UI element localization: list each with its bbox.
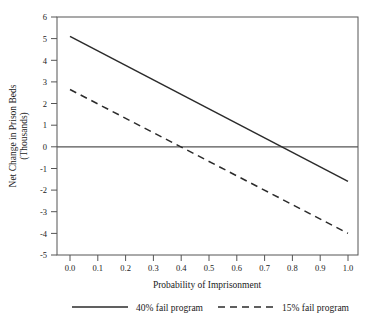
x-axis-title: Probability of Imprisonment xyxy=(153,280,262,290)
series-line-15-fail-program xyxy=(70,90,348,234)
x-tick-label: 0.6 xyxy=(231,263,242,273)
x-tick-label: 0.4 xyxy=(176,263,187,273)
x-tick-label: 0.1 xyxy=(92,263,103,273)
legend-label-15-fail-program: 15% fail program xyxy=(282,303,350,313)
x-axis: 0.0 0.1 0.2 0.3 0.4 0.5 0.6 0.7 0.8 0.9 … xyxy=(65,255,354,273)
x-tick-label: 0.2 xyxy=(120,263,131,273)
y-tick-label: 0 xyxy=(43,142,47,152)
y-tick-label: 2 xyxy=(43,99,47,109)
y-tick-label: 3 xyxy=(43,77,47,87)
y-tick-label: 1 xyxy=(43,120,47,130)
y-tick-label: -2 xyxy=(40,185,47,195)
chart-svg: 6 5 4 3 2 1 0 -1 -2 -3 -4 -5 0.0 0.1 0.2 xyxy=(0,0,372,326)
y-tick-label: -5 xyxy=(40,250,47,260)
chart-figure: 6 5 4 3 2 1 0 -1 -2 -3 -4 -5 0.0 0.1 0.2 xyxy=(0,0,372,326)
series-line-40-fail-program xyxy=(70,36,348,181)
y-tick-label: -3 xyxy=(40,207,47,217)
legend-item-15-fail-program: 15% fail program xyxy=(218,303,350,313)
y-tick-label: 6 xyxy=(43,12,47,22)
x-tick-label: 0.9 xyxy=(315,263,326,273)
chart-legend: 40% fail program 15% fail program xyxy=(72,303,350,313)
x-tick-label: 1.0 xyxy=(343,263,354,273)
x-tick-label: 0.0 xyxy=(65,263,76,273)
y-axis-title: Net Change in Prison Beds (Thousands) xyxy=(8,84,30,187)
legend-item-40-fail-program: 40% fail program xyxy=(72,303,204,313)
x-tick-label: 0.3 xyxy=(148,263,159,273)
y-tick-label: -4 xyxy=(40,229,48,239)
y-tick-label: 4 xyxy=(43,56,48,66)
x-tick-label: 0.5 xyxy=(204,263,215,273)
legend-label-40-fail-program: 40% fail program xyxy=(136,303,204,313)
y-axis-title-line2: (Thousands) xyxy=(19,112,30,160)
y-axis-title-line1: Net Change in Prison Beds xyxy=(8,84,18,187)
x-tick-label: 0.8 xyxy=(287,263,298,273)
y-tick-label: 5 xyxy=(43,34,47,44)
x-tick-label: 0.7 xyxy=(259,263,270,273)
y-axis: 6 5 4 3 2 1 0 -1 -2 -3 -4 -5 xyxy=(40,12,57,260)
y-tick-label: -1 xyxy=(40,164,47,174)
